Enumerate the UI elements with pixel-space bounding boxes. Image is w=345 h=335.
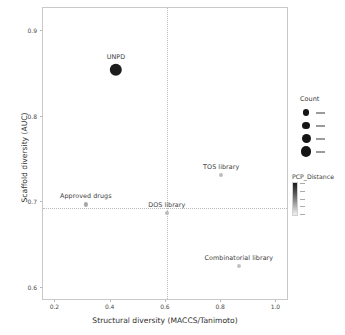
y-axis-tick-label: 0.6 — [27, 283, 37, 290]
x-axis-tick-label: 0.8 — [215, 303, 225, 310]
pcp-distance-key-label — [300, 206, 305, 207]
pcp-distance-key-label — [300, 191, 305, 192]
count-legend-entry — [296, 132, 345, 145]
count-legend-entry — [296, 145, 345, 158]
count-legend-bubble-cell — [296, 146, 316, 157]
y-axis-tick-mark — [40, 201, 42, 202]
x-axis-tick-mark — [275, 300, 276, 302]
y-axis-tick-label: 0.9 — [27, 27, 37, 34]
x-axis-tick-mark — [110, 300, 111, 302]
pcp-distance-legend: PCP_Distance — [292, 173, 345, 216]
data-point[interactable] — [219, 173, 223, 177]
count-legend-bubble — [302, 134, 311, 143]
x-axis-tick-mark — [165, 300, 166, 302]
count-legend: Count — [296, 95, 345, 158]
scatter-plot-figure: UNPDTOS libraryApproved drugsDOS library… — [0, 0, 345, 335]
x-axis-tick-mark — [220, 300, 221, 302]
pcp-distance-tick-labels — [298, 182, 305, 216]
y-axis-tick-mark — [40, 30, 42, 31]
data-point[interactable] — [165, 211, 169, 215]
x-axis-tick-label: 0.6 — [160, 303, 170, 310]
count-legend-entry — [296, 106, 345, 119]
data-point-label: Approved drugs — [60, 192, 112, 200]
pcp-distance-key-label — [300, 214, 305, 215]
pcp-distance-legend-title: PCP_Distance — [292, 173, 345, 180]
pcp-distance-key-label — [300, 199, 305, 200]
y-axis-tick-mark — [40, 116, 42, 117]
count-legend-key-label — [316, 138, 325, 140]
x-axis-tick-mark — [54, 300, 55, 302]
y-axis-tick-label: 0.7 — [27, 198, 37, 205]
y-axis-tick-mark — [40, 287, 42, 288]
data-point[interactable] — [110, 63, 122, 75]
count-legend-entries — [296, 106, 345, 158]
count-legend-bubble-cell — [296, 134, 316, 143]
data-point[interactable] — [84, 202, 88, 206]
x-axis-title: Structural diversity (MACCS/Tanimoto) — [42, 316, 288, 325]
count-legend-bubble — [303, 109, 309, 115]
vertical-reference-line — [167, 8, 168, 299]
data-point-label: Combinatorial library — [205, 254, 274, 262]
y-axis-tick-label: 0.8 — [27, 112, 37, 119]
x-axis-tick-label: 0.2 — [50, 303, 60, 310]
count-legend-key-label — [316, 112, 325, 114]
count-legend-bubble-cell — [296, 122, 316, 130]
data-point-label: DOS library — [148, 201, 185, 209]
pcp-distance-legend-body — [292, 182, 345, 216]
x-axis-tick-label: 0.4 — [105, 303, 115, 310]
count-legend-bubble-cell — [296, 109, 316, 115]
pcp-distance-key-label — [300, 183, 305, 184]
data-point[interactable] — [237, 264, 241, 268]
count-legend-entry — [296, 119, 345, 132]
count-legend-key-label — [316, 151, 325, 153]
data-point-label: TOS library — [203, 163, 239, 171]
count-legend-bubble — [302, 122, 310, 130]
plot-panel: UNPDTOS libraryApproved drugsDOS library… — [42, 7, 288, 300]
count-legend-key-label — [316, 125, 325, 127]
count-legend-title: Count — [300, 95, 345, 103]
y-axis-title: Scaffold diversity (AUC) — [20, 58, 29, 258]
count-legend-bubble — [301, 146, 312, 157]
data-point-label: UNPD — [107, 53, 125, 61]
x-axis-tick-label: 1.0 — [271, 303, 281, 310]
